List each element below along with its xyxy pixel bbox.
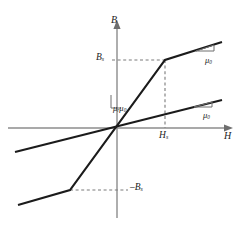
y-axis-label: B [111, 15, 117, 25]
mu-relative-slope-label: μrμ0 [113, 104, 126, 113]
slope-marker-group [111, 45, 214, 108]
b-saturation-label: Bs [96, 53, 104, 63]
h-saturation-label: Hs [159, 131, 168, 141]
mu0-upper-slope-label: μ0 [205, 56, 212, 65]
negative-b-saturation-label: –Bs [130, 183, 143, 193]
mu0-middle-slope-label: μ0 [203, 111, 210, 120]
x-axis-label: H [224, 131, 231, 141]
mu0-upper-slope-triangle [196, 45, 214, 51]
mu0-middle-slope-triangle [194, 102, 212, 107]
saturation-curve [18, 42, 222, 205]
bh-curve-figure: B H Bs –Bs Hs μrμ0 μ0 μ0 [0, 0, 240, 228]
